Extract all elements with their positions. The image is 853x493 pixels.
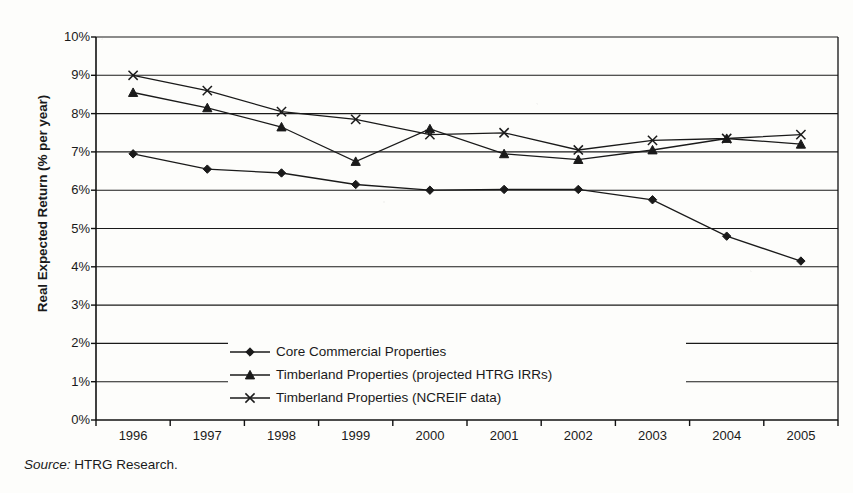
data-point-marker xyxy=(246,347,254,355)
legend-swatch-cross-icon xyxy=(228,391,272,405)
legend-item[interactable]: Timberland Properties (projected HTRG IR… xyxy=(228,363,686,386)
x-axis-tick-label: 2005 xyxy=(764,428,838,450)
legend-swatch-triangle-icon xyxy=(228,368,272,382)
legend-item[interactable]: Core Commercial Properties xyxy=(228,340,686,363)
legend-item[interactable]: Timberland Properties (NCREIF data) xyxy=(228,386,686,409)
legend-label: Timberland Properties (projected HTRG IR… xyxy=(276,368,552,382)
x-axis-tick-label: 2002 xyxy=(541,428,615,450)
x-axis-tick-label: 1999 xyxy=(319,428,393,450)
source-note: Source: HTRG Research. xyxy=(24,457,178,472)
plot-area xyxy=(0,0,853,493)
x-axis-tick-label: 2004 xyxy=(690,428,764,450)
source-text: HTRG Research. xyxy=(74,457,178,472)
x-axis-tick-label: 2000 xyxy=(393,428,467,450)
chart-figure: Real Expected Return (% per year) 10%9%8… xyxy=(0,0,853,493)
x-axis-tick-label: 1998 xyxy=(244,428,318,450)
x-axis-tick-labels: 1996199719981999200020012002200320042005 xyxy=(96,428,838,450)
x-axis-tick-label: 1996 xyxy=(96,428,170,450)
x-axis-tick-label: 1997 xyxy=(170,428,244,450)
legend-label: Core Commercial Properties xyxy=(276,345,446,359)
legend-label: Timberland Properties (NCREIF data) xyxy=(276,391,501,405)
source-label: Source: xyxy=(24,457,71,472)
chart-legend: Core Commercial PropertiesTimberland Pro… xyxy=(228,340,686,410)
x-axis-tick-label: 2001 xyxy=(467,428,541,450)
legend-swatch-diamond-icon xyxy=(228,345,272,359)
x-axis-tick-label: 2003 xyxy=(615,428,689,450)
